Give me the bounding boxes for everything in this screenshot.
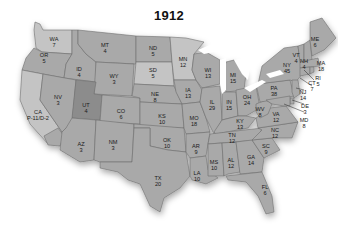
label-pa: PA38 [270, 85, 277, 97]
label-md: MD8 [300, 117, 309, 129]
label-ok: OK10 [163, 137, 171, 149]
label-wi: WI13 [205, 67, 212, 79]
label-al: AL12 [228, 157, 235, 169]
label-nc: NC12 [271, 127, 279, 139]
label-il: IL29 [209, 99, 215, 111]
label-ct: CT7 [308, 80, 316, 92]
label-la: LA10 [194, 170, 201, 182]
us-electoral-map: WA7 OR5 CAP-11/D-2 ID4 NV3 MT4 WY3 UT4 A… [0, 0, 338, 234]
label-mn: MN12 [179, 56, 188, 68]
label-de: DE3 [301, 103, 309, 115]
label-va: VA12 [272, 111, 279, 123]
state-fl[interactable] [226, 172, 274, 214]
label-mi: MI15 [230, 72, 237, 84]
label-oh: OH24 [243, 94, 251, 106]
label-ks: KS10 [158, 113, 166, 125]
label-tn: TN12 [228, 132, 235, 144]
label-ky: KY13 [236, 118, 244, 130]
lake-superior [198, 42, 240, 54]
label-tx: TX20 [154, 175, 161, 187]
label-ga: GA14 [247, 154, 255, 166]
lake-michigan [220, 58, 226, 94]
label-ri: RI5 [315, 75, 321, 87]
label-in: IN15 [226, 99, 232, 111]
label-ny: NY45 [283, 62, 291, 74]
label-ia: IA13 [185, 87, 191, 99]
state-ri[interactable] [310, 67, 314, 74]
label-nj: NJ14 [300, 89, 307, 101]
label-ma: MA18 [317, 60, 326, 72]
state-de[interactable] [290, 98, 294, 104]
